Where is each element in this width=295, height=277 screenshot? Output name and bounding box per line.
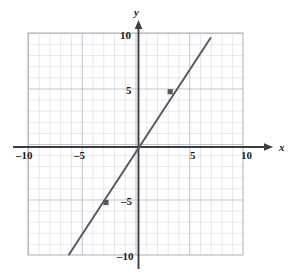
graph-canvas	[0, 0, 295, 277]
xtick-label-pos10: 10	[241, 150, 252, 161]
xtick-label-neg10: –10	[16, 150, 33, 161]
y-axis-label: y	[134, 7, 139, 18]
x-axis-arrowhead	[264, 143, 273, 151]
xtick-label-pos5: 5	[190, 150, 196, 161]
ytick-label-neg5: –5	[121, 196, 132, 207]
plotted-point-2	[103, 200, 108, 205]
coordinate-plane-figure: –10 –5 5 10 10 5 –5 –10 x y	[0, 0, 295, 277]
ytick-label-pos10: 10	[120, 30, 131, 41]
plotted-point-1	[168, 89, 173, 94]
xtick-label-neg5: –5	[74, 150, 85, 161]
y-axis-arrowhead	[135, 20, 143, 29]
ytick-label-neg10: –10	[117, 251, 134, 262]
x-axis-label: x	[279, 142, 285, 153]
grid-major	[28, 33, 243, 255]
ytick-label-pos5: 5	[126, 85, 132, 96]
